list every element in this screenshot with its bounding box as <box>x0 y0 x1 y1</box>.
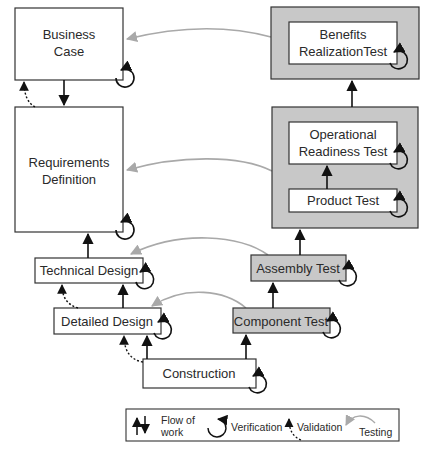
requirements-line2: Definition <box>42 172 96 187</box>
testing-arrow-operational-to-requirements <box>127 159 272 171</box>
v-model-diagram: Business Case Requirements Definition Te… <box>0 0 429 458</box>
detailed-design-label: Detailed Design <box>61 314 153 329</box>
product-test-label: Product Test <box>307 193 379 208</box>
validation-requirements-to-business <box>24 82 35 107</box>
operational-line1: Operational <box>309 127 376 142</box>
component-test-label: Component Test <box>234 314 329 329</box>
business-case-line1: Business <box>43 27 96 42</box>
requirements-definition-box[interactable]: Requirements Definition <box>15 107 123 232</box>
legend: Flow of work Verification Validation Tes… <box>126 409 399 441</box>
legend-validation: Validation <box>297 421 342 433</box>
testing-arrow-component-to-detailed <box>152 292 246 308</box>
validation-detailed-to-technical <box>62 285 78 308</box>
operational-line2: Readiness Test <box>299 144 388 159</box>
business-case-box[interactable]: Business Case <box>15 8 123 80</box>
construction-box[interactable]: Construction <box>143 359 256 388</box>
testing-arrow-assembly-to-technical <box>131 238 268 255</box>
business-case-line2: Case <box>54 44 84 59</box>
technical-design-box[interactable]: Technical Design <box>35 258 143 283</box>
legend-verification: Verification <box>231 421 283 433</box>
component-test-box[interactable]: Component Test <box>233 308 330 333</box>
testing-arrow-benefits-to-business <box>127 29 271 39</box>
legend-flow-line1: Flow of <box>161 414 195 426</box>
construction-label: Construction <box>163 366 236 381</box>
requirements-line1: Requirements <box>29 155 110 170</box>
technical-design-label: Technical Design <box>40 263 138 278</box>
benefits-line1: Benefits <box>320 27 367 42</box>
operational-readiness-group[interactable]: Operational Readiness Test Product Test <box>272 107 418 228</box>
assembly-test-box[interactable]: Assembly Test <box>251 255 346 281</box>
testing-arrows <box>127 29 272 308</box>
validation-construction-to-detailed <box>124 336 143 362</box>
benefits-line2: RealizationTest <box>299 44 388 59</box>
assembly-test-label: Assembly Test <box>256 261 340 276</box>
legend-flow-line2: work <box>160 426 184 438</box>
detailed-design-box[interactable]: Detailed Design <box>54 308 161 334</box>
legend-testing: Testing <box>359 426 392 438</box>
